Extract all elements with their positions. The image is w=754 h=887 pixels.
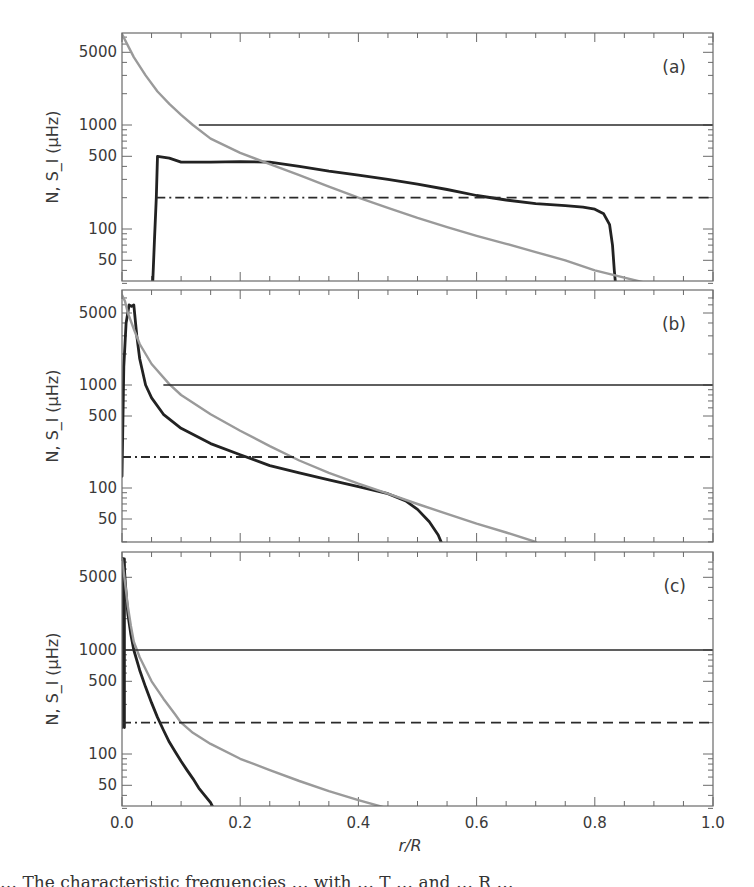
x-tick-label: 0.2 (228, 814, 252, 832)
y-tick-label: 5000 (79, 43, 117, 61)
panels-container: 5010050010005000(a)5010050010005000(b)50… (79, 33, 725, 832)
y-tick-label: 1000 (79, 376, 117, 394)
panel-frame (122, 33, 713, 281)
panel-c: 5010050010005000(c) (79, 552, 713, 808)
y-tick-label: 100 (88, 479, 117, 497)
y-tick-label: 500 (88, 672, 117, 690)
y-tick-label: 50 (98, 510, 117, 528)
y-tick-label: 50 (98, 251, 117, 269)
panel-frame (122, 552, 713, 806)
panel-label: (a) (662, 57, 686, 77)
panel-b: 5010050010005000(b) (79, 290, 713, 542)
plot-area (122, 559, 713, 808)
panel-a: 5010050010005000(a) (79, 33, 713, 283)
y-tick-label: 50 (98, 776, 117, 794)
y-axis-title-a: N, S_l (μHz) (43, 111, 63, 204)
y-tick-label: 5000 (79, 568, 117, 586)
buoyancy-frequency-curve (122, 559, 214, 808)
x-tick-label: 0.6 (465, 814, 489, 832)
x-axis-title: r/R (398, 836, 421, 855)
lamb-frequency-curve (122, 559, 388, 808)
x-tick-label: 0.4 (346, 814, 370, 832)
x-tick-label: 0.8 (583, 814, 607, 832)
y-tick-label: 500 (88, 147, 117, 165)
x-tick-label: 0.0 (110, 814, 134, 832)
buoyancy-frequency-curve (153, 156, 616, 283)
lamb-frequency-curve (122, 34, 648, 283)
plot-area (122, 295, 713, 542)
figure: 5010050010005000(a)5010050010005000(b)50… (0, 0, 754, 887)
y-tick-label: 500 (88, 407, 117, 425)
y-axis-title: N, S_l (μHz) (43, 111, 63, 204)
y-tick-label: 1000 (79, 641, 117, 659)
y-tick-label: 5000 (79, 304, 117, 322)
plot-area (122, 34, 713, 283)
buoyancy-frequency-curve (122, 305, 441, 542)
y-axis-title: N, S_l (μHz) (43, 633, 63, 726)
x-tick-label: 1.0 (701, 814, 725, 832)
lamb-frequency-curve (122, 295, 536, 542)
y-axis-title-b: N, S_l (μHz) (43, 370, 63, 463)
y-tick-label: 100 (88, 220, 117, 238)
y-axis-title-c: N, S_l (μHz) (43, 633, 63, 726)
figure-caption: … The characteristic frequencies … with … (0, 872, 754, 887)
y-tick-label: 100 (88, 745, 117, 763)
panel-label: (b) (662, 314, 686, 334)
y-axis-title: N, S_l (μHz) (43, 370, 63, 463)
panel-label: (c) (663, 576, 686, 596)
y-tick-label: 1000 (79, 116, 117, 134)
